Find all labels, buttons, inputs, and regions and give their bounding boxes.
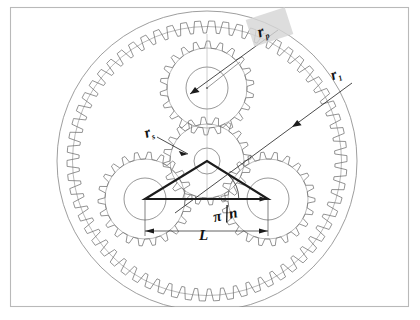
label-L-symbol: L: [198, 227, 208, 243]
diagram-canvas: rp r1 rs L π n: [0, 0, 420, 320]
figure-frame: [11, 8, 409, 307]
gear-diagram-figure: rp r1 rs L π n: [0, 0, 420, 320]
label-spacing: L: [198, 227, 208, 243]
